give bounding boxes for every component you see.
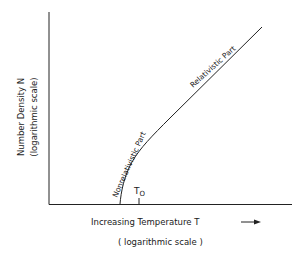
arrow-right-icon <box>254 220 261 225</box>
x-axis-sublabel: ( logarithmic scale ) <box>118 237 203 247</box>
x-axis-label: Increasing Temperature T <box>91 217 200 227</box>
density-curve <box>120 27 262 204</box>
y-axis-sublabel: (logarithmic scale) <box>29 77 39 156</box>
t0-label: TO <box>133 186 146 198</box>
nonrelativistic-label: Nonrelativistic Part <box>111 130 148 199</box>
y-axis-label: Number Density N <box>16 78 26 156</box>
diagram: Nonrelativistic Part Relativistic Part T… <box>0 0 304 258</box>
relativistic-label: Relativistic Part <box>188 44 237 90</box>
